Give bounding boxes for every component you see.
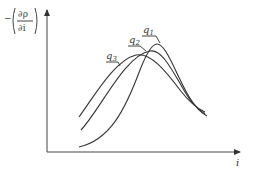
chart: q1 q2 q3 − ∂ρ ∂i i — [0, 0, 253, 173]
svg-text:∂ρ: ∂ρ — [18, 9, 28, 19]
label-q2: q2 — [129, 34, 140, 47]
curve-q1 — [79, 44, 207, 147]
label-q1: q1 — [143, 24, 154, 37]
x-axis-label: i — [236, 157, 239, 168]
label-q3: q3 — [106, 50, 117, 63]
svg-text:∂i: ∂i — [18, 23, 26, 33]
svg-text:−: − — [4, 13, 12, 23]
y-axis-label: − ∂ρ ∂i — [4, 8, 37, 34]
